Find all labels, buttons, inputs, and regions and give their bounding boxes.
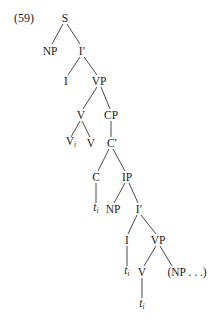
trace-c-index: i	[97, 206, 99, 215]
node-vp: VP	[92, 75, 107, 87]
node-vp-lower: VP	[151, 234, 166, 246]
node-cp: CP	[104, 109, 118, 121]
node-v-i-index: i	[74, 140, 76, 149]
node-v: V	[77, 109, 85, 121]
node-ip: IP	[122, 171, 132, 183]
node-np-complement: (NP . . .)	[167, 266, 206, 278]
node-s: S	[62, 12, 68, 24]
node-i-bar-lower: I′	[136, 203, 142, 215]
node-i-bar: I′	[79, 45, 85, 57]
node-v-lower: V	[138, 266, 146, 278]
node-v-head: V	[87, 137, 95, 149]
trace-i-index: i	[128, 269, 130, 278]
node-v-i: Vi	[66, 135, 76, 151]
node-i-lower: I	[125, 234, 129, 246]
node-c-bar: C′	[107, 137, 117, 149]
node-np: NP	[43, 45, 58, 57]
trace-i: ti	[124, 264, 129, 280]
node-c: C	[92, 171, 100, 183]
node-np-lower: NP	[106, 203, 121, 215]
node-i: I	[64, 75, 68, 87]
trace-v: ti	[139, 297, 144, 313]
trace-c: ti	[93, 201, 98, 217]
trace-v-index: i	[143, 302, 145, 311]
